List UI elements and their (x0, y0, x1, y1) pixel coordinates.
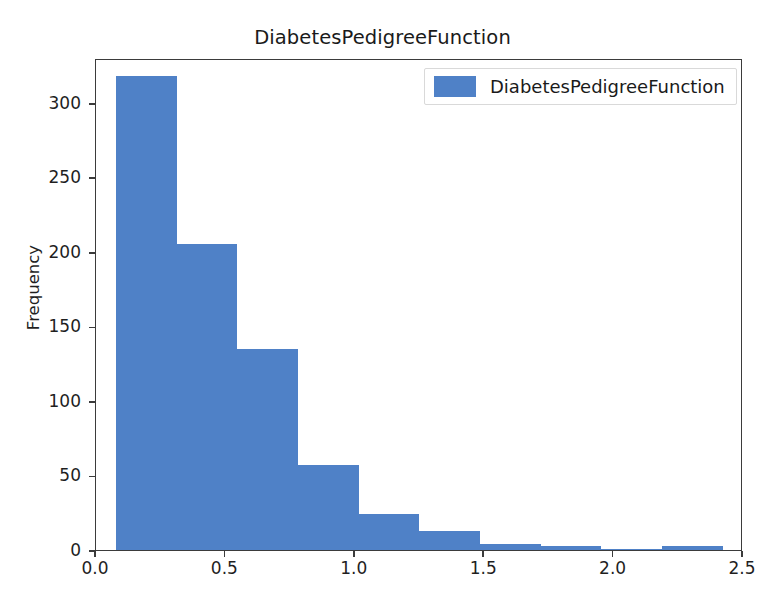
histogram-bar (662, 546, 723, 550)
histogram-bar (601, 549, 662, 551)
y-axis-label: Frequency (24, 218, 43, 358)
chart-legend: DiabetesPedigreeFunction (424, 68, 737, 105)
y-tick-label: 100 (18, 391, 81, 411)
x-tick-mark (612, 551, 614, 557)
histogram-bar (237, 349, 298, 550)
histogram-bar (359, 514, 420, 550)
histogram-bar (480, 544, 541, 550)
x-tick-label: 2.5 (707, 558, 765, 578)
histogram-bar (419, 531, 480, 550)
legend-entry-label: DiabetesPedigreeFunction (490, 76, 725, 97)
figure-canvas: DiabetesPedigreeFunction Frequency 05010… (0, 0, 765, 615)
x-tick-label: 1.5 (448, 558, 518, 578)
x-tick-mark (482, 551, 484, 557)
y-tick-label: 50 (18, 465, 81, 485)
plot-area (95, 59, 742, 551)
y-tick-label: 0 (18, 540, 81, 560)
y-tick-label: 200 (18, 242, 81, 262)
y-tick-label: 150 (18, 316, 81, 336)
histogram-bar (177, 244, 238, 550)
histogram-bar (541, 546, 602, 550)
page-title: DiabetesPedigreeFunction (0, 26, 765, 49)
x-tick-label: 2.0 (578, 558, 648, 578)
legend-swatch-icon (434, 76, 476, 97)
histogram-bar (298, 465, 359, 550)
x-tick-label: 0.5 (189, 558, 259, 578)
x-tick-mark (741, 551, 743, 557)
x-tick-mark (224, 551, 226, 557)
y-tick-label: 250 (18, 167, 81, 187)
histogram-bars (96, 60, 741, 550)
y-tick-label: 300 (18, 93, 81, 113)
x-tick-label: 1.0 (319, 558, 389, 578)
x-tick-label: 0.0 (60, 558, 130, 578)
histogram-bar (116, 76, 177, 550)
x-tick-mark (353, 551, 355, 557)
x-tick-mark (94, 551, 96, 557)
